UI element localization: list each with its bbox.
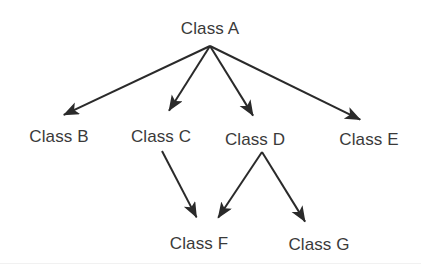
class-hierarchy-diagram: Class A Class B Class C Class D Class E … (0, 0, 421, 266)
node-label-class-f: Class F (170, 234, 228, 253)
edge-group (64, 46, 360, 222)
node-label-class-d: Class D (225, 130, 285, 149)
node-label-class-g: Class G (288, 235, 349, 254)
node-label-class-c: Class C (131, 127, 191, 146)
edge-c-to-f (162, 151, 197, 217)
edge-d-to-g (262, 152, 305, 222)
edge-d-to-f (218, 152, 262, 218)
node-label-class-a: Class A (181, 19, 239, 38)
node-label-class-e: Class E (339, 130, 398, 149)
node-label-class-b: Class B (29, 127, 88, 146)
scan-artifact-line (0, 263, 421, 264)
